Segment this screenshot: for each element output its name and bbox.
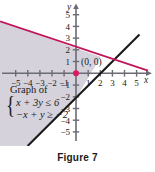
inequality-lines: x + 3y ≤ 6 −x + y ≥ −2 bbox=[16, 97, 68, 121]
test-point-label: (0, 0) bbox=[81, 57, 102, 68]
y-axis-label: y bbox=[66, 2, 72, 12]
x-tick-label: 4 bbox=[122, 78, 127, 88]
inequality-first: x + 3y ≤ 6 bbox=[16, 97, 68, 109]
x-axis-label: x bbox=[143, 75, 149, 85]
figure-caption: Figure 7 bbox=[0, 152, 155, 163]
y-axis-arrow bbox=[73, 4, 79, 10]
y-tick-label: −5 bbox=[60, 127, 70, 137]
y-tick-label: 1 bbox=[66, 57, 71, 67]
y-tick-label: 2 bbox=[66, 45, 71, 55]
inequality-second: −x + y ≥ −2 bbox=[16, 109, 68, 121]
x-tick-label: 2 bbox=[98, 78, 103, 88]
x-tick-label: 3 bbox=[110, 78, 115, 88]
system-brace-glyph: { bbox=[6, 94, 15, 121]
figure-container: −5 −4 −3 −2 −1 1 2 3 4 5 5 4 3 2 1 −1 −2… bbox=[0, 0, 155, 172]
x-tick-label: 1 bbox=[86, 78, 91, 88]
graph-svg: −5 −4 −3 −2 −1 1 2 3 4 5 5 4 3 2 1 −1 −2… bbox=[0, 0, 155, 146]
y-tick-label: 3 bbox=[66, 33, 71, 43]
graph-of-label: Graph of bbox=[6, 84, 76, 96]
y-tick-label: 4 bbox=[66, 22, 71, 32]
coordinate-plane: −5 −4 −3 −2 −1 1 2 3 4 5 5 4 3 2 1 −1 −2… bbox=[0, 0, 155, 146]
test-point-marker bbox=[73, 70, 79, 76]
inequality-system: Graph of { x + 3y ≤ 6 −x + y ≥ −2 bbox=[6, 84, 76, 121]
inequality-group: { x + 3y ≤ 6 −x + y ≥ −2 bbox=[6, 97, 76, 121]
x-tick-label: 5 bbox=[134, 78, 139, 88]
